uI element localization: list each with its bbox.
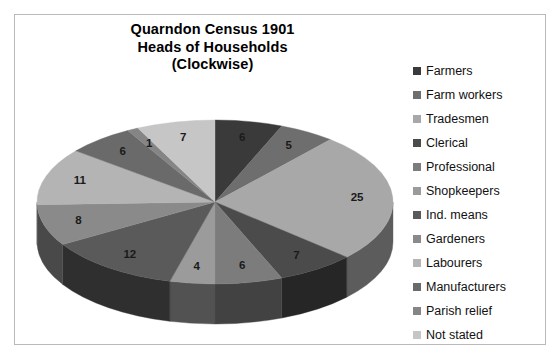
legend-swatch-icon xyxy=(413,331,421,339)
pie-data-label: 5 xyxy=(286,139,293,151)
pie-data-label: 8 xyxy=(75,214,82,226)
legend-label: Professional xyxy=(426,161,495,174)
legend-item[interactable]: Farm workers xyxy=(413,83,537,107)
legend-swatch-icon xyxy=(413,67,421,75)
pie-data-label: 1 xyxy=(146,137,153,149)
legend-swatch-icon xyxy=(413,115,421,123)
pie-data-label: 7 xyxy=(293,249,299,261)
legend-swatch-icon xyxy=(413,211,421,219)
legend-item[interactable]: Ind. means xyxy=(413,203,537,227)
pie-data-label: 25 xyxy=(351,191,364,203)
legend-label: Manufacturers xyxy=(426,281,506,294)
pie-data-label: 11 xyxy=(74,174,87,186)
legend-item[interactable]: Gardeners xyxy=(413,227,537,251)
legend-swatch-icon xyxy=(413,139,421,147)
plot-area: Quarndon Census 1901 Heads of Households… xyxy=(15,15,423,344)
legend-item[interactable]: Manufacturers xyxy=(413,275,537,299)
pie-data-label: 7 xyxy=(180,131,186,143)
pie-top-faces xyxy=(37,120,393,284)
legend-swatch-icon xyxy=(413,307,421,315)
legend-item[interactable]: Clerical xyxy=(413,131,537,155)
pie-svg: 652576412811617 xyxy=(19,107,419,327)
legend-item[interactable]: Farmers xyxy=(413,59,537,83)
legend-item[interactable]: Professional xyxy=(413,155,537,179)
pie-slice-side xyxy=(215,278,282,324)
legend-label: Parish relief xyxy=(426,305,492,318)
legend-label: Labourers xyxy=(426,257,482,270)
chart-title: Quarndon Census 1901 Heads of Households… xyxy=(15,21,410,74)
legend-label: Gardeners xyxy=(426,233,485,246)
pie-data-label: 4 xyxy=(194,260,201,272)
legend-swatch-icon xyxy=(413,187,421,195)
pie-data-label: 6 xyxy=(239,259,245,271)
legend-swatch-icon xyxy=(413,259,421,267)
pie-data-label: 12 xyxy=(123,248,136,260)
pie-data-label: 6 xyxy=(119,145,125,157)
legend-swatch-icon xyxy=(413,91,421,99)
pie-slice-side xyxy=(170,281,215,324)
legend-label: Ind. means xyxy=(426,209,488,222)
chart-legend: FarmersFarm workersTradesmenClericalProf… xyxy=(413,59,537,347)
legend-item[interactable]: Not stated xyxy=(413,323,537,347)
legend-label: Clerical xyxy=(426,137,468,150)
legend-label: Not stated xyxy=(426,329,483,342)
chart-frame: Quarndon Census 1901 Heads of Households… xyxy=(14,14,546,345)
legend-item[interactable]: Parish relief xyxy=(413,299,537,323)
legend-label: Tradesmen xyxy=(426,113,489,126)
legend-swatch-icon xyxy=(413,283,421,291)
legend-item[interactable]: Shopkeepers xyxy=(413,179,537,203)
legend-label: Shopkeepers xyxy=(426,185,500,198)
legend-label: Farmers xyxy=(426,65,473,78)
legend-item[interactable]: Tradesmen xyxy=(413,107,537,131)
legend-swatch-icon xyxy=(413,235,421,243)
legend-swatch-icon xyxy=(413,163,421,171)
legend-label: Farm workers xyxy=(426,89,502,102)
pie-chart: 652576412811617 xyxy=(19,107,419,327)
legend-item[interactable]: Labourers xyxy=(413,251,537,275)
pie-data-label: 6 xyxy=(239,131,245,143)
